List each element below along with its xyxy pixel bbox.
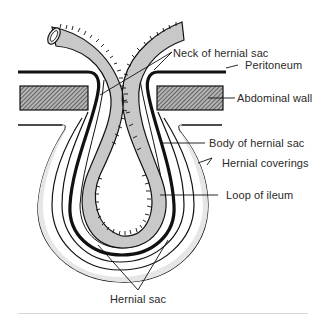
label-hernial-sac: Hernial sac [110, 293, 166, 305]
label-neck-of-hernial-sac: Neck of hernial sac [173, 47, 268, 59]
bottom-separator [18, 313, 308, 314]
label-loop-of-ileum: Loop of ileum [226, 189, 293, 201]
loop-of-ileum [45, 22, 184, 248]
label-peritoneum: Peritoneum [245, 59, 302, 71]
label-body-of-hernial-sac: Body of hernial sac [209, 137, 304, 149]
label-abdominal-wall: Abdominal wall [237, 92, 312, 104]
label-hernial-coverings: Hernial coverings [222, 157, 309, 169]
